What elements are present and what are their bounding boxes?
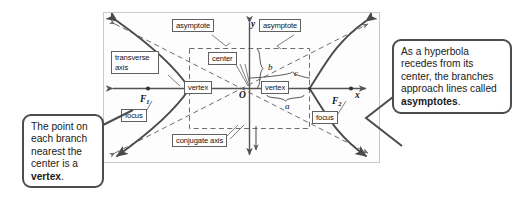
left-callout-emphasis: vertex xyxy=(31,171,61,182)
segment-label-c: c xyxy=(294,68,298,78)
label-conjugate-axis: conjugate axis xyxy=(172,134,227,147)
axis-label-x: x xyxy=(355,90,360,100)
left-callout-trail: . xyxy=(61,171,64,182)
label-asymptote-right: asymptote xyxy=(259,19,301,32)
label-asymptote-left: asymptote xyxy=(172,19,214,32)
right-callout: As a hyperbola recedes from its center, … xyxy=(392,39,512,114)
label-transverse-axis: transverse axis xyxy=(111,51,159,74)
hyperbola-diagram: asymptote asymptote transverse axis cent… xyxy=(103,12,380,163)
right-callout-lead: As a hyperbola recedes from its center, … xyxy=(401,46,497,94)
right-callout-trail: . xyxy=(458,96,461,107)
focus-label-F1: F1 xyxy=(140,94,150,105)
segment-label-a: a xyxy=(285,101,290,111)
label-vertex-right: vertex xyxy=(261,81,289,94)
hyperbola-graphic xyxy=(104,13,380,163)
segment-label-b: b xyxy=(268,62,273,72)
left-callout-lead: The point on each branch nearest the cen… xyxy=(31,121,88,169)
axis-label-y: y xyxy=(251,19,255,29)
focus-subscript-F1: 1 xyxy=(146,98,149,105)
figure-canvas: asymptote asymptote transverse axis cent… xyxy=(0,0,528,201)
brace-c xyxy=(250,72,310,78)
focus-subscript-F2: 2 xyxy=(338,100,341,107)
left-callout: The point on each branch nearest the cen… xyxy=(22,114,104,188)
label-center: center xyxy=(208,52,237,65)
label-vertex-left: vertex xyxy=(184,81,212,94)
right-callout-emphasis: asymptotes xyxy=(401,96,458,107)
label-focus-right: focus xyxy=(312,111,338,124)
focus-label-F2: F2 xyxy=(332,96,342,107)
origin-label: O xyxy=(239,90,246,100)
